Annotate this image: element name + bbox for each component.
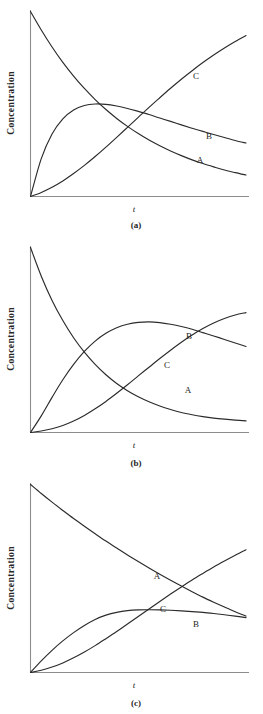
curve-b-species-b: [31, 322, 247, 433]
curve-a-species-c: [31, 36, 247, 197]
y-axis-label-b: Concentration: [5, 307, 16, 371]
chart-panel-c: Concentration t A C B (c): [0, 472, 263, 714]
curve-label-b-b: B: [186, 331, 192, 341]
caption-b: (b): [131, 458, 142, 468]
curve-label-b-a: A: [185, 385, 192, 395]
y-axis-label-c: Concentration: [5, 546, 16, 610]
curve-c-species-a: [31, 485, 247, 617]
chart-panel-a: Concentration t C B A (a): [0, 0, 263, 238]
curve-b-species-a: [31, 248, 247, 421]
x-axis-label-b: t: [133, 440, 136, 450]
plot-b: Concentration t B C A (b): [0, 236, 263, 474]
caption-a: (a): [131, 220, 142, 230]
curve-label-c-c: C: [160, 604, 166, 614]
chart-panel-b: Concentration t B C A (b): [0, 236, 263, 474]
curves-c: [31, 485, 247, 673]
plot-c: Concentration t A C B (c): [0, 472, 263, 714]
y-axis-label-a: Concentration: [5, 71, 16, 135]
curve-b-species-c: [31, 313, 247, 433]
figure-page: Concentration t C B A (a) Concentration …: [0, 0, 263, 714]
axes-c: [30, 483, 249, 673]
curve-a-species-a: [31, 12, 247, 176]
caption-c: (c): [131, 698, 141, 708]
plot-a: Concentration t C B A (a): [0, 0, 263, 238]
x-axis-label-c: t: [133, 680, 136, 690]
axes-b: [30, 246, 249, 433]
curve-label-b-c: C: [164, 360, 170, 370]
x-axis-label-a: t: [133, 204, 136, 214]
curves-a: [31, 12, 247, 197]
curve-label-c-b: B: [193, 619, 199, 629]
curves-b: [31, 248, 247, 433]
axes-a: [30, 10, 249, 197]
curve-label-a-a: A: [197, 155, 204, 165]
curve-c-species-c: [31, 550, 247, 673]
curve-label-c-a: A: [154, 571, 161, 581]
curve-label-a-b: B: [206, 131, 212, 141]
curve-label-a-c: C: [193, 71, 199, 81]
